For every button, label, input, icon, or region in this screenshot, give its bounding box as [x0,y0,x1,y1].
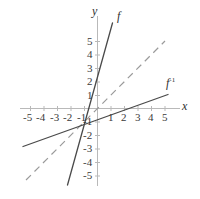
x-tick-label-3: 3 [135,112,141,123]
x-tick-label-5: 5 [162,112,168,123]
y-tick-label-3: 3 [87,63,93,74]
y-tick-label--3: -3 [83,143,92,154]
y-tick-label-2: 2 [87,76,93,87]
y-tick-label-4: 4 [87,49,93,60]
x-tick-label--4: -4 [36,112,45,123]
curve-label-f-inverse: f-1 [166,75,175,89]
axis-label-x: x [182,101,187,112]
graph-figure: x y f f-1 -5 -4 -3 -2 -1 1 2 3 4 5 5 4 3… [0,0,200,199]
coordinate-plot [0,0,200,199]
x-tick-label-1: 1 [108,112,114,123]
x-tick-label-4: 4 [148,112,154,123]
identity-line-y-equals-x [26,41,165,180]
y-tick-label--5: -5 [83,170,92,181]
x-tick-label-2: 2 [121,112,127,123]
x-tick-label--3: -3 [50,112,59,123]
y-tick-label-1: 1 [87,90,93,101]
y-tick-label--2: -2 [83,130,92,141]
y-tick-label--4: -4 [83,157,92,168]
curve-label-f: f [117,11,120,22]
curve-label-f-inverse-exponent: -1 [169,76,175,84]
y-tick-label--1: -1 [83,116,92,127]
axis-label-y: y [92,6,97,17]
x-tick-label--5: -5 [23,112,32,123]
y-tick-label-5: 5 [87,36,93,47]
x-tick-label--2: -2 [63,112,72,123]
